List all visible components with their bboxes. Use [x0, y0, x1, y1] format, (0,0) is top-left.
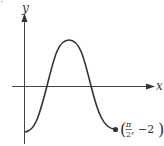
- x-axis-label: x: [156, 79, 163, 93]
- y-axis-label: y: [21, 1, 29, 15]
- corner-mark: ·: [1, 0, 3, 6]
- endpoint-dot: [113, 127, 118, 132]
- paren-close: ): [158, 120, 164, 139]
- x-axis-arrow-icon: [146, 84, 155, 90]
- endpoint-y-value: , −2: [131, 123, 154, 136]
- function-graph: y x ( π 2 , −2 ) ·: [0, 0, 164, 146]
- endpoint-label: ( π 2 , −2 ): [120, 120, 164, 139]
